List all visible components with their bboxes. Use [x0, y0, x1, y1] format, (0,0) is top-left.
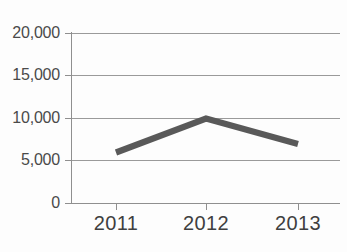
chart-canvas: 20,000 15,000 10,000 5,000 0 2011 2012 2…: [0, 0, 347, 252]
gridlines: [71, 34, 340, 161]
x-tick-label-2012: 2012: [183, 212, 229, 234]
y-axis-ticks: [65, 34, 71, 204]
y-tick-label-20000: 20,000: [12, 24, 60, 41]
y-tick-label-0: 0: [51, 194, 60, 211]
y-tick-label-10000: 10,000: [12, 109, 60, 126]
data-series-line: [116, 119, 298, 153]
line-chart: 20,000 15,000 10,000 5,000 0 2011 2012 2…: [0, 0, 347, 252]
x-tick-label-2011: 2011: [94, 212, 139, 234]
y-tick-label-15000: 15,000: [12, 66, 60, 83]
y-axis-tick-labels: 20,000 15,000 10,000 5,000 0: [12, 24, 60, 211]
x-tick-label-2013: 2013: [275, 212, 321, 234]
y-tick-label-5000: 5,000: [21, 151, 60, 168]
x-axis-tick-labels: 2011 2012 2013: [94, 212, 321, 234]
